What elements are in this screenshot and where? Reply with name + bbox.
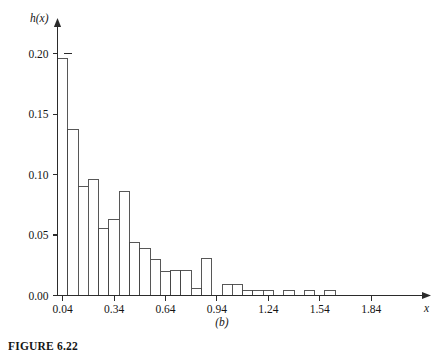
histogram-bar (58, 58, 68, 295)
histogram-figure: 0.000.050.100.150.20 0.040.340.640.941.2… (0, 0, 441, 351)
histogram-bar (171, 270, 181, 295)
y-tick-label: 0.00 (28, 290, 48, 302)
x-tick-label: 0.34 (104, 303, 124, 315)
x-tick-label: 0.94 (207, 303, 227, 315)
histogram-bar (191, 288, 201, 295)
y-axis-title: h(x) (30, 12, 49, 25)
histogram-bar (253, 291, 263, 296)
histogram-bar (181, 270, 191, 295)
histogram-bar (263, 291, 273, 296)
x-tick-label: 1.54 (310, 303, 330, 315)
histogram-bar (325, 291, 335, 296)
histogram-bar (140, 248, 150, 295)
y-tick-label: 0.05 (28, 229, 48, 241)
figure-number-label: FIGURE 6.22 (8, 340, 78, 351)
y-axis-arrow-icon (54, 18, 61, 27)
histogram-bars (58, 58, 336, 295)
histogram-bar (222, 285, 232, 296)
histogram-bar (109, 219, 119, 295)
y-tick-label: 0.15 (28, 108, 48, 120)
y-tick-label: 0.10 (28, 169, 48, 181)
x-axis-ticks: 0.040.340.640.941.241.541.84 (53, 296, 382, 315)
histogram-bar (119, 191, 129, 295)
histogram-bar (284, 291, 294, 296)
histogram-bar (99, 229, 109, 296)
histogram-bar (243, 291, 253, 296)
x-tick-label: 1.24 (258, 303, 278, 315)
x-tick-label: 0.04 (53, 303, 73, 315)
histogram-bar (304, 291, 314, 296)
x-axis-arrow-icon (422, 292, 431, 299)
x-tick-label: 0.64 (155, 303, 175, 315)
histogram-bar (202, 258, 212, 296)
histogram-bar (68, 130, 78, 296)
histogram-bar (160, 271, 170, 295)
histogram-bar (150, 259, 160, 295)
histogram-bar (78, 187, 88, 296)
histogram-bar (232, 285, 242, 296)
x-tick-label: 1.84 (361, 303, 381, 315)
histogram-bar (130, 242, 140, 295)
histogram-bar (88, 179, 98, 295)
y-tick-label: 0.20 (28, 48, 48, 60)
panel-caption: (b) (215, 316, 229, 329)
x-axis-title: x (423, 302, 430, 314)
histogram-chart: 0.000.050.100.150.20 0.040.340.640.941.2… (0, 0, 441, 351)
